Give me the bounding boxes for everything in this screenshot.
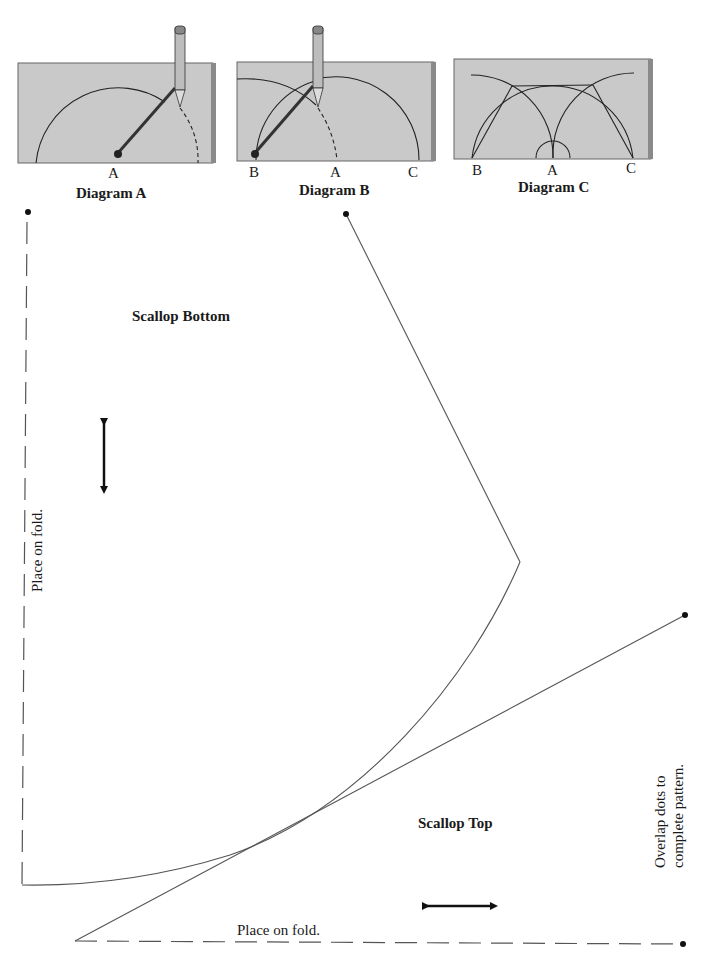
scallop-top-side-line xyxy=(75,615,685,941)
diagram-b-caption: Diagram B xyxy=(299,182,369,199)
overlap-note: Overlap dots tocomplete pattern. xyxy=(651,764,687,868)
diagram-c-caption: Diagram C xyxy=(518,179,589,196)
compass-pivot-icon xyxy=(114,150,122,158)
overlap-note-line1: Overlap dots to xyxy=(652,776,668,868)
scallop-top-fold-label: Place on fold. xyxy=(237,922,320,939)
scallop-bottom-title: Scallop Bottom xyxy=(132,308,230,325)
scallop-top-piece xyxy=(75,612,688,947)
diagram-b xyxy=(237,26,436,161)
diagram-b-point-label-a: A xyxy=(330,164,341,181)
diagram-a-caption: Diagram A xyxy=(76,185,146,202)
scallop-bottom-piece xyxy=(22,209,520,885)
scallop-bottom-side-line xyxy=(346,214,520,562)
scallop-top-title: Scallop Top xyxy=(418,815,493,832)
scallop-top-fold-line xyxy=(75,941,680,944)
pencil-icon xyxy=(175,26,185,107)
diagram-c-point-label-c: C xyxy=(626,160,636,177)
diagram-b-point-label-c: C xyxy=(408,164,418,181)
diagram-c-paper-edge xyxy=(648,59,653,159)
match-dot xyxy=(343,211,349,217)
pencil-b-icon xyxy=(313,26,323,107)
diagram-a-paper-edge xyxy=(211,63,216,163)
diagram-c-point-label-b: B xyxy=(472,162,482,179)
diagram-a xyxy=(18,26,216,163)
scallop-bottom-fold-label: Place on fold. xyxy=(29,509,46,592)
diagram-c-point-label-a: A xyxy=(547,162,558,179)
diagram-a-point-label: A xyxy=(108,165,119,182)
match-dot xyxy=(25,209,31,215)
compass-pivot-b-icon xyxy=(251,150,259,158)
match-dot xyxy=(680,941,686,947)
pattern-canvas xyxy=(0,0,703,964)
overlap-note-line2: complete pattern. xyxy=(670,764,686,868)
match-dot xyxy=(682,612,688,618)
scallop-bottom-fold-line xyxy=(22,222,27,885)
diagram-b-point-label-b: B xyxy=(249,164,259,181)
diagram-c xyxy=(454,59,653,159)
diagram-b-paper-edge xyxy=(431,62,436,161)
